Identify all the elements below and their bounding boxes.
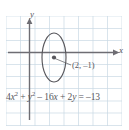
- center-point-label: (2, –1): [72, 61, 95, 70]
- leader-line: [55, 59, 71, 66]
- center-point-marker: [52, 55, 56, 59]
- equation-plus-1: +: [18, 92, 28, 102]
- y-axis-label: y: [30, 10, 34, 19]
- equation-equals-rhs: = –13: [76, 92, 100, 102]
- x-axis-label: x: [119, 46, 123, 55]
- ellipse-equation: 4x2 + y2 – 16x + 2y = –13: [6, 93, 100, 103]
- equation-minus-16: – 16: [35, 92, 54, 102]
- y-axis: [27, 18, 33, 120]
- plot-canvas: [0, 0, 129, 130]
- ellipse-graph-figure: y x (2, –1) 4x2 + y2 – 16x + 2y = –13: [0, 0, 129, 130]
- equation-plus-2: + 2: [58, 92, 72, 102]
